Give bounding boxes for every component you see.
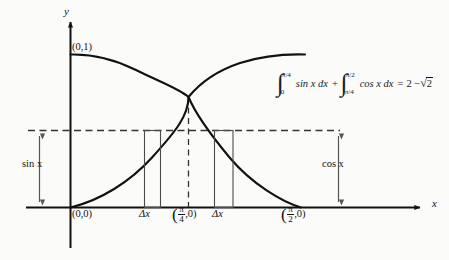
x-axis-label: x (432, 198, 437, 209)
figure-canvas: y x (0,1) (0,0) Δx Δx sin x cos x ( π 4 … (0, 0, 449, 260)
fraction-denominator: 4 (178, 214, 185, 224)
point-label-y-intercept: (0,1) (72, 42, 92, 53)
point-label-pi-over-4: ( π 4 ,0) (172, 205, 197, 224)
delta-x-label-left: Δx (139, 209, 150, 220)
delta-x-label-right: Δx (212, 209, 223, 220)
paren-open: ( (281, 206, 287, 223)
integral-lower-limit: 0 (281, 88, 290, 96)
fraction-pi-4: π 4 (178, 205, 185, 224)
integral-upper-limit: π/2 (346, 71, 355, 79)
integral-upper-limit: π/4 (282, 71, 291, 79)
riemann-rectangle-left (145, 131, 161, 208)
integral-first: ∫ π/4 0 sin x dx (277, 72, 328, 95)
integral-second: ∫ π/2 π/4 cos x dx (341, 72, 394, 95)
point-label-origin: (0,0) (72, 209, 92, 220)
fraction-numerator: π (287, 205, 294, 214)
equals-operator: = (398, 78, 404, 89)
cos-measure-label: cos x (322, 159, 344, 170)
radicand: 2 (426, 77, 433, 90)
plus-operator: + (332, 78, 338, 89)
sin-measure-label: sin x (22, 159, 42, 170)
square-root-expression: √ 2 (420, 77, 433, 90)
y-axis-label: y (64, 6, 69, 17)
fraction-denominator: 2 (287, 214, 294, 224)
integrand-sin: sin x dx (296, 78, 328, 89)
integral-equation: ∫ π/4 0 sin x dx + ∫ π/2 π/4 cos x dx = … (277, 72, 433, 95)
point-label-suffix: ,0) (185, 209, 196, 220)
fraction-numerator: π (178, 205, 185, 214)
result-lead: 2 − (406, 78, 420, 89)
integral-lower-limit: π/4 (345, 88, 354, 96)
curve-cos-x (71, 54, 302, 207)
point-label-suffix: ,0) (294, 209, 305, 220)
fraction-pi-2: π 2 (287, 205, 294, 224)
paren-open: ( (172, 206, 178, 223)
plot-svg (0, 0, 449, 260)
integrand-cos: cos x dx (360, 78, 394, 89)
point-label-pi-over-2: ( π 2 ,0) (281, 205, 306, 224)
